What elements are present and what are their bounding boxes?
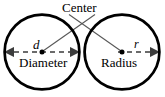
radius-label: Radius bbox=[101, 56, 137, 69]
center-label: Center bbox=[62, 1, 97, 14]
circle-diagram: Center d Diameter r Radius bbox=[0, 0, 165, 97]
diameter-label: Diameter bbox=[19, 56, 67, 69]
center-leader-line-left bbox=[43, 15, 95, 52]
right-center-dot bbox=[120, 50, 125, 55]
diameter-symbol-label: d bbox=[33, 38, 40, 51]
left-center-dot bbox=[40, 50, 45, 55]
radius-symbol-label: r bbox=[134, 38, 139, 50]
center-leader-line-right bbox=[69, 15, 121, 52]
